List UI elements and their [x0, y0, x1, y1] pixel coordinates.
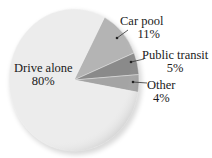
arrow-car-pool-head [116, 37, 119, 40]
label-car-pool-value: 11% [120, 28, 163, 41]
label-drive-alone-value: 80% [14, 75, 73, 88]
label-other: Other 4% [147, 79, 175, 105]
label-other-value: 4% [147, 92, 175, 105]
label-public-transit-value: 5% [142, 62, 208, 75]
label-car-pool: Car pool 11% [120, 15, 163, 41]
label-public-transit: Public transit 5% [142, 49, 208, 75]
arrow-other-head [132, 81, 135, 84]
label-drive-alone: Drive alone 80% [14, 62, 73, 88]
arrow-public-transit-head [130, 61, 133, 64]
